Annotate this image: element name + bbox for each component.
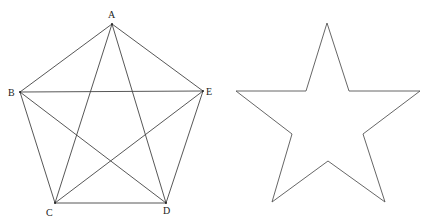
edge-AB <box>20 24 112 92</box>
vertex-label-C: C <box>46 207 53 218</box>
vertex-point-C <box>54 202 56 204</box>
edge-BE <box>20 91 203 92</box>
vertex-label-D: D <box>163 205 170 216</box>
vertex-point-A <box>111 23 113 25</box>
edge-BC <box>20 92 55 203</box>
vertex-label-B: B <box>8 87 15 98</box>
vertex-label-A: A <box>108 9 116 20</box>
star-shape <box>236 23 420 202</box>
vertex-point-B <box>19 91 21 93</box>
pentagon-figure <box>20 24 203 203</box>
vertex-labels: ABCDE <box>8 9 212 218</box>
edge-BD <box>20 92 166 203</box>
diagram-canvas: ABCDE <box>0 0 427 220</box>
edge-EA <box>112 24 203 91</box>
vertex-point-D <box>165 202 167 204</box>
edge-AD <box>112 24 166 203</box>
edge-AC <box>55 24 112 203</box>
edge-DE <box>166 91 203 203</box>
vertex-label-E: E <box>206 86 212 97</box>
vertex-point-E <box>202 90 204 92</box>
edge-CE <box>55 91 203 203</box>
